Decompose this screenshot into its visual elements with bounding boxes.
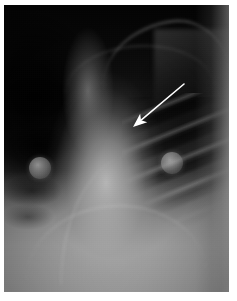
screenshot-viewport: [0, 0, 237, 301]
film-vignette: [4, 5, 229, 292]
page-margin-bottom: [0, 292, 237, 301]
page-margin-left: [0, 0, 4, 301]
chest-radiograph-image: [4, 5, 229, 292]
page-margin-right: [229, 0, 237, 301]
page-margin-top: [0, 0, 237, 5]
